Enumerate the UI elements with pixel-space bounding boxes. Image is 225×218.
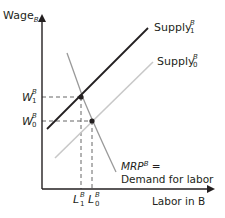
w1-sup: B: [32, 88, 37, 96]
supply0-curve: [55, 62, 153, 158]
l0-sup: B: [95, 191, 100, 199]
equilibrium-point-1: [78, 94, 83, 99]
demand-curve: [67, 53, 116, 172]
l0-label: L: [88, 193, 94, 206]
w0-sub: 0: [32, 121, 36, 129]
w0-sup: B: [32, 112, 37, 120]
labor-market-chart: WageB Labor in B Supply B 1 Supply B 0 M…: [0, 0, 225, 218]
supply1-sub: 1: [190, 27, 194, 35]
x-axis-label: Labor in B: [152, 195, 205, 207]
guide-lines: [42, 97, 92, 189]
supply1-curve: [47, 28, 148, 129]
demand-label: Demand for labor: [121, 173, 214, 185]
supply1-label: Supply: [154, 21, 192, 34]
mrp-label: MRPB =: [121, 160, 161, 172]
w1-sub: 1: [32, 97, 36, 105]
supply0-sub: 0: [193, 61, 197, 69]
supply0-label: Supply: [157, 55, 195, 68]
l1-sup: B: [80, 191, 85, 199]
l1-sub: 1: [80, 200, 84, 208]
l1-label: L: [73, 193, 79, 206]
supply1-sup: B: [190, 19, 195, 27]
supply0-sup: B: [193, 53, 198, 61]
l0-sub: 0: [95, 200, 99, 208]
equilibrium-point-0: [89, 118, 94, 123]
y-axis-label: WageB: [3, 9, 39, 24]
